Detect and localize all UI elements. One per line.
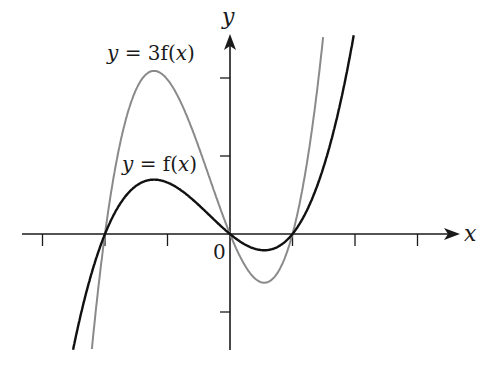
label-f: y = f(x) xyxy=(121,152,197,176)
axes xyxy=(22,45,448,350)
curve-f xyxy=(73,35,354,350)
origin-label: 0 xyxy=(213,240,226,264)
y-ticks xyxy=(220,78,230,312)
x-axis-label: x xyxy=(464,221,477,246)
label-3f: y = 3f(x) xyxy=(106,41,195,65)
function-graph: y x 0 y = 3f(x) y = f(x) xyxy=(0,0,500,367)
curve-3f xyxy=(92,37,323,349)
y-axis-label: y xyxy=(221,4,235,29)
